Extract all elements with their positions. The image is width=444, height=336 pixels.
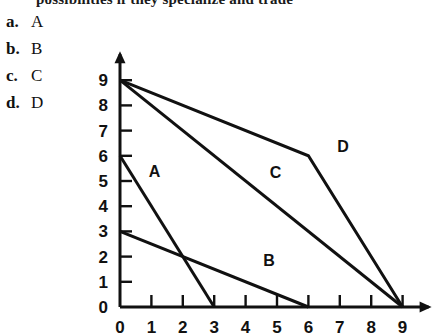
y-axis-tick-label: 3 <box>99 222 108 241</box>
x-axis-tick-label: 8 <box>366 318 375 336</box>
y-axis-tick-label: 1 <box>99 273 108 292</box>
y-axis-tick-label: 2 <box>99 248 108 267</box>
chart-canvas: 01234567890123456789 ABCD <box>0 0 444 336</box>
x-axis-tick-label: 3 <box>209 318 218 336</box>
y-axis-tick-label: 0 <box>99 298 108 317</box>
axes-group <box>115 51 432 312</box>
question-figure: possibilities if they specialize and tra… <box>0 0 444 336</box>
x-axis-arrowhead <box>420 302 432 313</box>
y-axis-tick-label: 5 <box>99 172 108 191</box>
y-axis-tick-label: 6 <box>99 147 108 166</box>
y-axis-tick-label: 8 <box>99 96 108 115</box>
tick-labels-group: 01234567890123456789 <box>99 71 408 336</box>
curve-label-b: B <box>263 252 275 269</box>
y-axis-arrowhead <box>115 51 126 63</box>
x-axis-tick-label: 9 <box>398 318 407 336</box>
x-axis-tick-label: 7 <box>335 318 344 336</box>
curves-group <box>120 80 403 307</box>
x-axis-tick-label: 2 <box>178 318 187 336</box>
y-axis-tick-label: 7 <box>99 122 108 141</box>
ppf-curve-c <box>120 80 403 307</box>
production-possibilities-chart: 01234567890123456789 ABCD <box>0 0 444 336</box>
ppf-curve-a <box>120 156 214 307</box>
x-axis-tick-label: 1 <box>147 318 156 336</box>
x-axis-tick-label: 5 <box>272 318 281 336</box>
y-axis-tick-label: 9 <box>99 71 108 90</box>
curve-label-c: C <box>270 164 282 181</box>
y-axis-tick-label: 4 <box>99 197 109 216</box>
x-axis-tick-label: 4 <box>241 318 251 336</box>
curve-label-a: A <box>149 163 161 180</box>
x-axis-tick-label: 6 <box>304 318 313 336</box>
x-axis-tick-label: 0 <box>115 318 124 336</box>
curve-label-d: D <box>337 138 349 155</box>
